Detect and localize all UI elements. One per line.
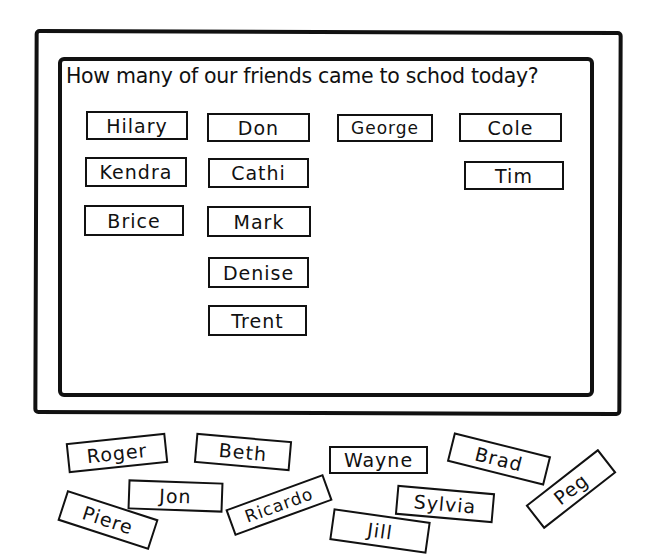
name-card-ricardo[interactable]: Ricardo — [225, 474, 332, 536]
name-card-jon[interactable]: Jon — [128, 479, 224, 512]
name-card-beth[interactable]: Beth — [194, 433, 292, 471]
name-card-cathi[interactable]: Cathi — [208, 158, 309, 188]
name-card-denise[interactable]: Denise — [208, 257, 309, 288]
name-card-tim[interactable]: Tim — [464, 161, 564, 190]
board-question: How many of our friends came to schod to… — [66, 64, 538, 88]
name-card-sylvia[interactable]: Sylvia — [395, 485, 495, 523]
name-card-mark[interactable]: Mark — [207, 206, 311, 237]
name-card-wayne[interactable]: Wayne — [329, 446, 428, 474]
name-card-george[interactable]: George — [337, 114, 433, 142]
name-card-don[interactable]: Don — [207, 113, 310, 142]
name-card-roger[interactable]: Roger — [66, 433, 169, 473]
name-card-cole[interactable]: Cole — [459, 113, 562, 142]
name-card-trent[interactable]: Trent — [208, 305, 307, 336]
name-card-brad[interactable]: Brad — [447, 432, 551, 485]
name-card-brice[interactable]: Brice — [84, 205, 184, 236]
name-card-hilary[interactable]: Hilary — [86, 111, 188, 140]
name-card-kendra[interactable]: Kendra — [85, 157, 187, 187]
